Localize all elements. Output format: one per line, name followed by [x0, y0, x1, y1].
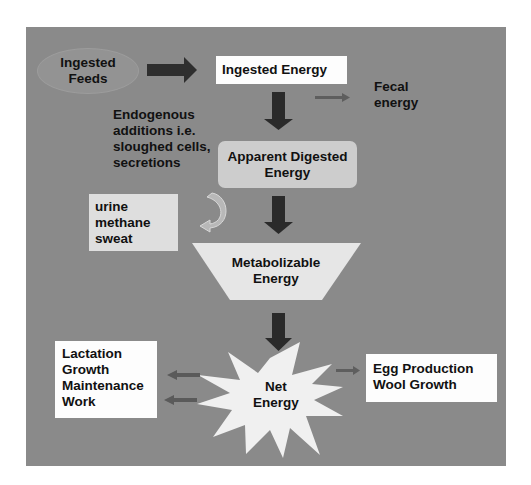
arrow-down-icon — [264, 196, 293, 234]
fecal-line2: energy — [374, 95, 418, 111]
apparent-digested-energy-node: Apparent Digested Energy — [218, 141, 357, 188]
arrow-small-right-icon — [336, 366, 360, 375]
losses-sweat: sweat — [95, 231, 178, 247]
arrow-small-left-icon — [167, 370, 200, 380]
use-maintenance: Maintenance — [62, 378, 157, 394]
losses-urine: urine — [95, 199, 178, 215]
ingested-energy-label: Ingested Energy — [216, 56, 347, 78]
net-energy-label: Net Energy — [236, 379, 316, 411]
use-growth: Growth — [62, 362, 157, 378]
ne-line1: Net — [236, 379, 316, 395]
endogenous-additions-label: Endogenous additions i.e. sloughed cells… — [113, 107, 211, 171]
ne-line2: Energy — [236, 395, 316, 411]
fecal-energy-label: Fecal energy — [374, 79, 418, 111]
ade-line1: Apparent Digested — [227, 149, 347, 165]
losses-methane: methane — [95, 215, 178, 231]
fecal-line1: Fecal — [374, 79, 418, 95]
me-line1: Metabolizable — [216, 255, 336, 271]
endogenous-line3: sloughed cells, — [113, 139, 211, 155]
endogenous-line4: secretions — [113, 155, 211, 171]
arrow-small-left-icon — [164, 395, 197, 405]
ingested-feeds-node: Ingested Feeds — [37, 48, 139, 94]
endogenous-line1: Endogenous — [113, 107, 211, 123]
use-work: Work — [62, 394, 157, 410]
arrow-down-icon — [265, 313, 292, 351]
ade-line2: Energy — [227, 165, 347, 181]
losses-box: urine methane sweat — [89, 194, 178, 251]
arrow-right-icon — [147, 57, 197, 83]
use-wool-growth: Wool Growth — [373, 377, 497, 393]
arrow-down-icon — [264, 92, 293, 130]
ingested-feeds-line1: Ingested — [60, 55, 116, 71]
maintenance-uses-box: Lactation Growth Maintenance Work — [55, 341, 157, 418]
arrow-small-right-icon — [315, 93, 350, 102]
use-egg-production: Egg Production — [373, 361, 497, 377]
me-line2: Energy — [216, 271, 336, 287]
metabolizable-energy-label: Metabolizable Energy — [216, 255, 336, 287]
production-uses-box: Egg Production Wool Growth — [366, 354, 497, 402]
use-lactation: Lactation — [62, 346, 157, 362]
ingested-energy-node: Ingested Energy — [216, 56, 347, 84]
ingested-feeds-line2: Feeds — [60, 71, 116, 87]
endogenous-line2: additions i.e. — [113, 123, 211, 139]
curved-arrow-icon — [200, 193, 226, 232]
